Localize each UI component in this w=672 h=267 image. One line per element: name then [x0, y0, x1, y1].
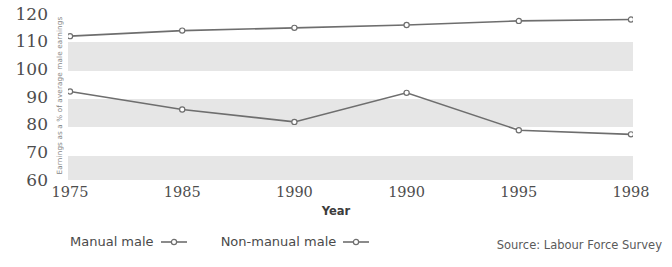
y-axis-title: Earnings as a % of average male earnings — [54, 10, 66, 180]
y-axis-tick-label: 120 — [2, 6, 48, 23]
data-point-marker — [404, 22, 409, 27]
source-note: Source: Labour Force Survey — [497, 238, 662, 252]
data-point-marker — [292, 25, 297, 30]
y-axis-tick-label: 100 — [2, 61, 48, 78]
y-axis-tick-label: 110 — [2, 33, 48, 50]
data-point-marker — [516, 18, 521, 23]
y-axis-title-text: Earnings as a % of average male earnings — [56, 16, 65, 174]
x-axis-tick-label: 1975 — [52, 184, 89, 200]
x-axis: 197519851990199019951998 — [0, 184, 672, 204]
y-axis: 12011010090807060 — [0, 0, 48, 190]
x-axis-tick-label: 1990 — [388, 184, 425, 200]
x-axis-tick-label: 1995 — [500, 184, 537, 200]
chart-legend: Manual maleNon-manual male — [70, 234, 369, 249]
series-lines — [68, 14, 633, 180]
x-axis-tick-label: 1998 — [613, 184, 650, 200]
data-point-marker — [628, 132, 633, 137]
y-axis-tick-label: 90 — [2, 89, 48, 106]
y-axis-tick-label: 80 — [2, 116, 48, 133]
legend-line-marker-icon — [343, 237, 369, 247]
data-point-marker — [68, 34, 73, 39]
legend-line-marker-icon — [161, 237, 187, 247]
data-point-marker — [292, 119, 297, 124]
series-line — [70, 91, 631, 134]
data-point-marker — [180, 28, 185, 33]
plot-area — [68, 14, 633, 180]
data-point-marker — [516, 128, 521, 133]
series-line — [70, 20, 631, 37]
legend-item[interactable]: Manual male — [70, 234, 187, 249]
data-point-marker — [404, 90, 409, 95]
legend-label: Non-manual male — [221, 234, 337, 249]
data-point-marker — [68, 89, 73, 94]
x-axis-tick-label: 1985 — [164, 184, 201, 200]
data-point-marker — [628, 17, 633, 22]
legend-item[interactable]: Non-manual male — [221, 234, 370, 249]
legend-label: Manual male — [70, 234, 154, 249]
x-axis-tick-label: 1990 — [276, 184, 313, 200]
chart-container: 12011010090807060 Earnings as a % of ave… — [0, 0, 672, 267]
x-axis-title: Year — [0, 204, 672, 218]
data-point-marker — [180, 107, 185, 112]
y-axis-tick-label: 70 — [2, 144, 48, 161]
